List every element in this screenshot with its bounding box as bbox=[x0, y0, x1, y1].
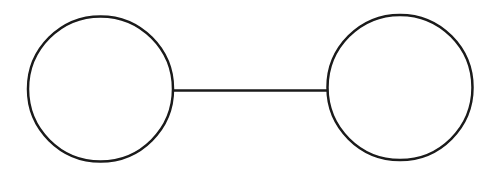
graph-diagram bbox=[0, 0, 500, 171]
left-circle[interactable] bbox=[28, 17, 173, 162]
diagram-canvas: Two empty circles connected by a single … bbox=[0, 0, 500, 171]
node-group bbox=[28, 15, 473, 162]
right-circle[interactable] bbox=[328, 15, 473, 160]
